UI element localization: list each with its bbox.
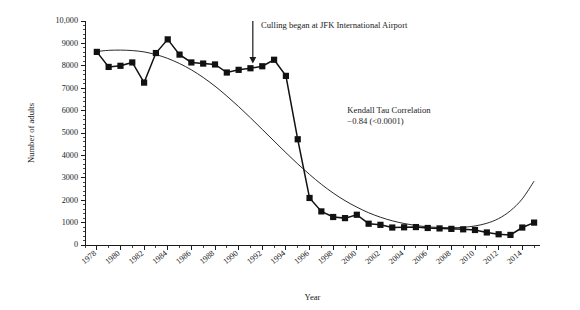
- data-point-marker: [259, 63, 265, 69]
- data-point-marker: [484, 229, 490, 235]
- data-point-marker: [425, 225, 431, 231]
- data-point-marker: [188, 59, 194, 65]
- data-point-marker: [271, 57, 277, 63]
- data-point-marker: [212, 61, 218, 67]
- data-point-marker: [106, 64, 112, 70]
- chart-figure: 010002000300040005000600070008000900010,…: [0, 0, 580, 310]
- x-axis-title: Year: [305, 292, 321, 302]
- data-point-marker: [354, 212, 360, 218]
- y-axis-title: Number of adults: [26, 102, 36, 163]
- data-point-marker: [496, 231, 502, 237]
- data-point-marker: [247, 65, 253, 71]
- y-tick-label: 0: [74, 240, 78, 249]
- y-tick-label: 6000: [62, 106, 78, 115]
- data-point-marker: [460, 226, 466, 232]
- data-point-marker: [306, 195, 312, 201]
- data-point-marker: [413, 224, 419, 230]
- data-point-marker: [330, 214, 336, 220]
- data-point-marker: [236, 67, 242, 73]
- data-point-marker: [94, 49, 100, 55]
- culling-annotation-text: Culling began at JFK International Airpo…: [261, 20, 408, 30]
- data-point-marker: [448, 226, 454, 232]
- y-tick-label: 3000: [62, 173, 78, 182]
- data-point-marker: [129, 59, 135, 65]
- y-tick-label: 5000: [62, 128, 78, 137]
- y-tick-label: 7000: [62, 84, 78, 93]
- y-tick-label: 1000: [62, 218, 78, 227]
- y-tick-label: 4000: [62, 151, 78, 160]
- y-tick-label: 8000: [62, 61, 78, 70]
- data-point-marker: [377, 222, 383, 228]
- data-point-marker: [117, 63, 123, 69]
- data-point-marker: [295, 136, 301, 142]
- y-tick-label: 2000: [62, 196, 78, 205]
- data-point-marker: [165, 36, 171, 42]
- data-point-marker: [200, 60, 206, 66]
- data-point-marker: [519, 224, 525, 230]
- data-point-marker: [531, 220, 537, 226]
- data-point-marker: [401, 224, 407, 230]
- y-tick-label: 9000: [62, 39, 78, 48]
- data-point-marker: [224, 69, 230, 75]
- kendall-tau-value: −0.84 (<0.0001): [347, 116, 403, 126]
- data-point-marker: [318, 208, 324, 214]
- data-point-marker: [176, 52, 182, 58]
- y-tick-label: 10,000: [55, 16, 78, 25]
- kendall-tau-title: Kendall Tau Correlation: [347, 105, 431, 115]
- data-point-marker: [366, 221, 372, 227]
- data-point-marker: [153, 50, 159, 56]
- data-point-marker: [283, 73, 289, 79]
- data-point-marker: [342, 215, 348, 221]
- data-point-marker: [472, 227, 478, 233]
- data-point-marker: [436, 225, 442, 231]
- data-point-marker: [141, 80, 147, 86]
- data-point-marker: [507, 232, 513, 238]
- line-chart-canvas: 010002000300040005000600070008000900010,…: [0, 0, 580, 310]
- data-point-marker: [389, 224, 395, 230]
